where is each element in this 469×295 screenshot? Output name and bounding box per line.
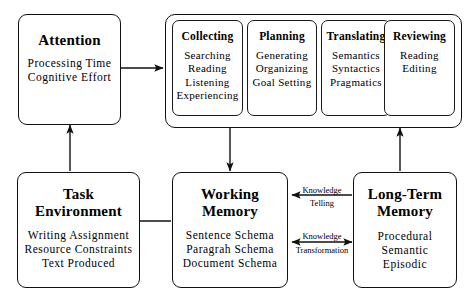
process-item: Reading — [176, 62, 238, 75]
task-environment-item: Text Produced — [24, 256, 132, 270]
node-task-environment[interactable]: Task Environment Writing Assignment Reso… — [17, 172, 140, 288]
process-item: Organizing — [253, 62, 312, 75]
process-items: Searching Reading Listening Experiencing — [176, 49, 238, 103]
attention-item: Cognitive Effort — [28, 70, 112, 84]
working-memory-item: Document Schema — [183, 256, 278, 270]
label-knowledge-telling-line2: Telling — [293, 198, 351, 208]
long-term-memory-item: Episodic — [378, 257, 433, 271]
node-working-memory[interactable]: Working Memory Sentence Schema Paragrah … — [172, 172, 288, 288]
process-items: Generating Organizing Goal Setting — [253, 49, 312, 89]
process-item: Listening — [176, 76, 238, 89]
task-environment-title-line2: Environment — [35, 203, 122, 220]
process-planning[interactable]: Planning Generating Organizing Goal Sett… — [247, 20, 317, 116]
process-title: Reviewing — [393, 30, 446, 43]
working-memory-title: Working Memory — [201, 186, 259, 220]
working-memory-title-line2: Memory — [201, 203, 259, 220]
attention-title: Attention — [38, 32, 101, 49]
process-item: Generating — [253, 49, 312, 62]
task-environment-items: Writing Assignment Resource Constraints … — [24, 228, 132, 270]
working-memory-items: Sentence Schema Paragrah Schema Document… — [183, 228, 278, 270]
process-title: Collecting — [182, 30, 234, 43]
process-title: Translating — [327, 30, 386, 43]
process-item: Pragmatics — [330, 76, 382, 89]
attention-items: Processing Time Cognitive Effort — [28, 56, 112, 84]
process-translating[interactable]: Translating Semantics Syntactics Pragmat… — [321, 20, 391, 116]
process-item: Reading — [400, 49, 439, 62]
long-term-memory-title-line2: Memory — [368, 203, 443, 220]
label-knowledge-telling-line1: Knowledge — [293, 185, 351, 195]
working-memory-item: Sentence Schema — [183, 228, 278, 242]
long-term-memory-item: Procedural — [378, 229, 433, 243]
process-item: Goal Setting — [253, 76, 312, 89]
label-knowledge-transformation-line1: Knowledge — [293, 231, 351, 241]
long-term-memory-title: Long-Term Memory — [368, 186, 443, 220]
task-environment-title-line1: Task — [35, 186, 122, 203]
process-item: Experiencing — [176, 89, 238, 102]
process-item: Semantics — [330, 49, 382, 62]
task-environment-item: Resource Constraints — [24, 242, 132, 256]
long-term-memory-items: Procedural Semantic Episodic — [378, 229, 433, 271]
working-memory-title-line1: Working — [201, 186, 259, 203]
task-environment-title: Task Environment — [35, 186, 122, 220]
long-term-memory-item: Semantic — [378, 243, 433, 257]
attention-item: Processing Time — [28, 56, 112, 70]
process-collecting[interactable]: Collecting Searching Reading Listening E… — [172, 20, 243, 116]
node-long-term-memory[interactable]: Long-Term Memory Procedural Semantic Epi… — [353, 172, 457, 288]
working-memory-item: Paragrah Schema — [183, 242, 278, 256]
label-knowledge-transformation-line2: Transformation — [286, 245, 358, 255]
long-term-memory-title-line1: Long-Term — [368, 186, 443, 203]
process-item: Editing — [400, 62, 439, 75]
process-item: Syntactics — [330, 62, 382, 75]
process-item: Searching — [176, 49, 238, 62]
process-title: Planning — [259, 30, 305, 43]
cognitive-model-of-writing-diagram: Attention Processing Time Cognitive Effo… — [0, 0, 469, 295]
task-environment-item: Writing Assignment — [24, 228, 132, 242]
process-items: Reading Editing — [400, 49, 439, 76]
process-reviewing[interactable]: Reviewing Reading Editing — [384, 20, 455, 116]
process-items: Semantics Syntactics Pragmatics — [330, 49, 382, 89]
node-attention[interactable]: Attention Processing Time Cognitive Effo… — [18, 14, 121, 125]
